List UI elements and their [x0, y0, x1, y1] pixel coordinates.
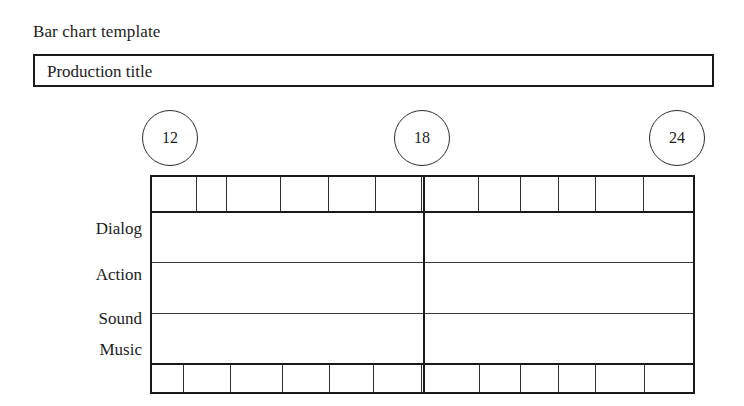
page-canvas: Bar chart template Production title 12 1…	[0, 0, 744, 406]
bottom-ruler-cell[interactable]	[596, 365, 645, 392]
bottom-ruler-cell[interactable]	[645, 365, 693, 392]
top-ruler-cell[interactable]	[559, 177, 596, 211]
top-ruler-cell[interactable]	[521, 177, 559, 211]
scale-marker-18[interactable]: 18	[394, 110, 450, 166]
scale-marker-18-label: 18	[414, 129, 430, 147]
bottom-ruler-cell[interactable]	[559, 365, 596, 392]
top-ruler-cell[interactable]	[376, 177, 423, 211]
top-ruler-cell[interactable]	[152, 177, 197, 211]
bottom-ruler-cell[interactable]	[521, 365, 559, 392]
top-ruler-cell[interactable]	[281, 177, 329, 211]
scale-marker-12-label: 12	[162, 129, 178, 147]
row-label-action: Action	[10, 265, 150, 285]
bottom-ruler-cell[interactable]	[184, 365, 231, 392]
top-ruler-cell[interactable]	[329, 177, 376, 211]
bottom-ruler-cell[interactable]	[330, 365, 374, 392]
scale-marker-24[interactable]: 24	[649, 110, 705, 166]
top-ruler-cell[interactable]	[596, 177, 645, 211]
row-label-column: Dialog Action Sound Music	[0, 0, 150, 406]
row-label-dialog: Dialog	[10, 219, 150, 239]
row-label-music: Music	[10, 340, 150, 360]
bottom-ruler-cell[interactable]	[422, 365, 479, 392]
midpoint-divider	[423, 177, 425, 392]
bottom-ruler-cell[interactable]	[231, 365, 283, 392]
bar-chart-grid	[150, 175, 695, 394]
top-ruler-cell[interactable]	[479, 177, 521, 211]
bottom-ruler-cell[interactable]	[374, 365, 423, 392]
bottom-ruler-cell[interactable]	[283, 365, 330, 392]
top-ruler-cell[interactable]	[227, 177, 281, 211]
top-ruler-cell[interactable]	[644, 177, 693, 211]
bottom-ruler-cell[interactable]	[480, 365, 522, 392]
top-ruler-cell[interactable]	[197, 177, 227, 211]
top-ruler-cell[interactable]	[422, 177, 479, 211]
scale-marker-12[interactable]: 12	[142, 110, 198, 166]
bottom-ruler-cell[interactable]	[152, 365, 184, 392]
row-label-sound: Sound	[10, 309, 150, 329]
scale-marker-24-label: 24	[669, 129, 685, 147]
